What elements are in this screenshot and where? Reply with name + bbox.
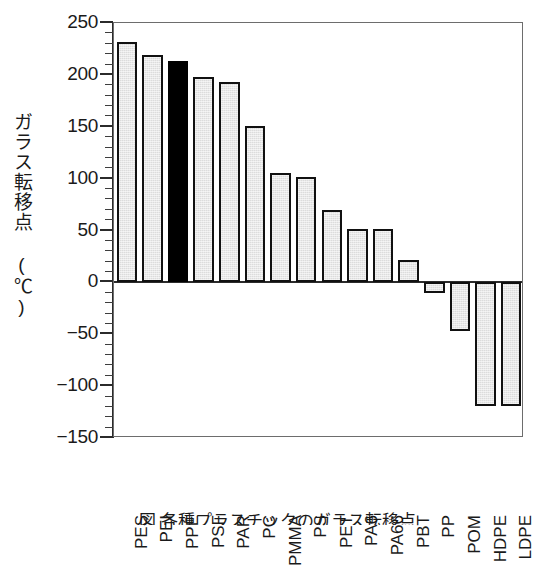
y-tick-major [100,73,113,75]
bar-pet [322,210,343,283]
y-tick-minor [105,416,113,417]
y-tick-minor [105,271,113,272]
y-tick-minor [105,427,113,428]
y-tick-major [100,280,113,282]
y-tick-minor [105,84,113,85]
bar-pa6 [347,229,368,282]
y-tick-major [100,384,113,386]
y-tick-label: −100 [36,375,98,394]
y-tick-label: 250 [36,12,98,31]
y-tick-label: 100 [36,168,98,187]
bar-ppe [168,61,189,282]
y-tick-minor [105,53,113,54]
y-tick-minor [105,354,113,355]
y-axis-tick-labels: 250200150100500−50−100−150 [10,0,98,525]
y-tick-major [100,21,113,23]
y-tick-minor [105,240,113,241]
y-tick-minor [105,157,113,158]
y-tick-minor [105,209,113,210]
y-tick-minor [105,64,113,65]
plot-area [114,23,522,436]
y-tick-minor [105,32,113,33]
bar-par [219,82,240,282]
y-tick-major [100,177,113,179]
bar-pp [424,282,445,292]
y-tick-minor [105,115,113,116]
y-tick-minor [105,198,113,199]
bar-ps [296,177,317,283]
y-tick-minor [105,344,113,345]
x-axis-tick-labels: PESPEIPPEPSFPARPCPMMAPSPETPA6PA66PBTPPPO… [113,441,523,519]
y-tick-label: 0 [36,271,98,290]
y-tick-minor [105,313,113,314]
bar-hdpe [475,282,496,405]
y-tick-minor [105,147,113,148]
y-tick-minor [105,406,113,407]
y-tick-minor [105,292,113,293]
y-tick-minor [105,167,113,168]
y-tick-minor [105,323,113,324]
y-tick-major [100,332,113,334]
y-tick-major [100,125,113,127]
figure-caption: 図 各種プラスチックのガラス転移点 [0,512,555,525]
bar-pom [450,282,471,331]
y-tick-label: 50 [36,220,98,239]
y-tick-major [100,436,113,438]
y-tick-minor [105,250,113,251]
y-tick-minor [105,136,113,137]
y-tick-minor [105,302,113,303]
y-tick-minor [105,43,113,44]
y-tick-label: −50 [36,323,98,342]
y-tick-minor [105,95,113,96]
y-tick-label: 150 [36,116,98,135]
y-tick-minor [105,375,113,376]
y-tick-minor [105,261,113,262]
y-tick-minor [105,219,113,220]
y-tick-major [100,229,113,231]
y-tick-minor [105,188,113,189]
bar-psf [193,77,214,282]
bar-pmma [270,173,291,282]
y-tick-minor [105,396,113,397]
bar-pbt [398,260,419,283]
bar-ldpe [501,282,522,405]
bar-pes [117,42,138,283]
bar-pei [142,55,163,282]
bar-pc [245,126,266,283]
bar-pa66 [373,229,394,282]
y-tick-label: 200 [36,64,98,83]
y-tick-label: −150 [36,427,98,446]
y-tick-minor [105,364,113,365]
y-tick-minor [105,105,113,106]
plot-frame [113,22,523,437]
